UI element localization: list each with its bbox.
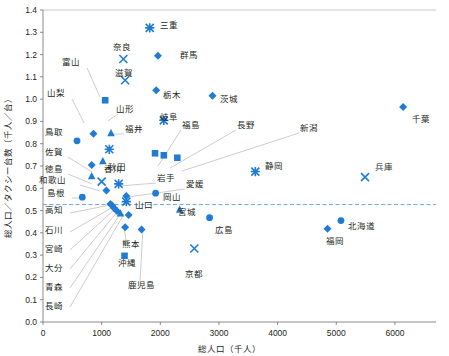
point-label-沖縄: 沖縄	[118, 258, 136, 268]
data-point-北海道[interactable]	[338, 217, 345, 224]
point-label-福岡: 福岡	[326, 236, 344, 246]
data-point-広島[interactable]	[206, 214, 213, 221]
x-axis-title: 総人口（千人）	[198, 344, 261, 354]
data-point-茨城[interactable]	[209, 92, 217, 100]
y-tick-label: 1.4	[25, 5, 37, 15]
data-point-新潟[interactable]	[174, 154, 181, 161]
data-point-熊本[interactable]	[121, 223, 129, 231]
leader-line-富山	[87, 68, 100, 97]
data-point-鹿児島[interactable]	[138, 226, 146, 234]
scatter-chart: 0.00.10.20.30.40.50.60.70.80.91.01.11.21…	[0, 0, 449, 356]
point-label-鳥取: 鳥取	[45, 127, 63, 137]
leader-line-長崎	[70, 214, 124, 307]
y-tick-label: 1.1	[25, 72, 37, 82]
point-label-群馬: 群馬	[180, 50, 198, 60]
point-label-徳島: 徳島	[45, 164, 63, 174]
point-label-岡山: 岡山	[163, 192, 181, 202]
y-tick-label: 0.3	[25, 250, 37, 260]
chart-canvas: 0.00.10.20.30.40.50.60.70.80.91.01.11.21…	[0, 0, 449, 356]
data-point-栃木[interactable]	[152, 86, 160, 94]
data-point-奈良[interactable]	[119, 55, 127, 63]
data-point-山形[interactable]	[107, 129, 115, 136]
point-label-香川: 香川	[104, 164, 122, 174]
point-label-京都: 京都	[185, 269, 203, 279]
point-label-広島: 広島	[215, 225, 233, 235]
point-label-岩手: 岩手	[157, 173, 175, 183]
x-tick-label: 0	[41, 328, 46, 338]
point-label-福島: 福島	[182, 120, 200, 130]
data-point-福井[interactable]	[105, 145, 114, 154]
leader-line-高知	[70, 205, 110, 213]
point-label-奈良: 奈良	[113, 42, 131, 52]
data-point-福島[interactable]	[152, 150, 159, 157]
y-tick-label: 0.7	[25, 161, 37, 171]
data-point-鳥取[interactable]	[74, 137, 81, 144]
x-tick-label: 5000	[327, 328, 346, 338]
data-point-三重[interactable]	[145, 23, 154, 32]
point-label-和歌山: 和歌山	[39, 175, 66, 185]
x-tick-label: 1000	[92, 328, 111, 338]
data-point-佐賀[interactable]	[88, 161, 96, 169]
data-point-徳島[interactable]	[88, 172, 96, 179]
data-point-島根[interactable]	[79, 194, 86, 201]
data-point-長崎[interactable]	[125, 211, 133, 219]
point-label-長野: 長野	[237, 120, 255, 130]
y-tick-label: 0.8	[25, 139, 37, 149]
data-point-兵庫[interactable]	[361, 173, 369, 181]
y-tick-label: 0.5	[25, 206, 37, 216]
x-tick-label: 4000	[268, 328, 287, 338]
y-tick-label: 1.2	[25, 50, 37, 60]
leader-line-山形	[108, 114, 118, 121]
point-label-島根: 島根	[47, 188, 65, 198]
leader-line-山梨	[72, 99, 84, 123]
y-axis-title: 総人口／タクシー台数（千人／台）	[3, 94, 13, 238]
data-point-香川[interactable]	[98, 178, 106, 186]
leader-line-石川	[70, 207, 113, 232]
leader-line-和歌山	[80, 185, 100, 191]
y-tick-label: 0.1	[25, 295, 37, 305]
point-label-北海道: 北海道	[348, 221, 375, 231]
leader-line-青森	[70, 213, 121, 288]
data-point-千葉[interactable]	[399, 103, 407, 111]
point-label-兵庫: 兵庫	[375, 162, 393, 172]
point-label-愛媛: 愛媛	[186, 179, 204, 189]
data-point-福岡[interactable]	[323, 225, 331, 233]
y-tick-label: 0.4	[25, 228, 37, 238]
point-label-佐賀: 佐賀	[45, 147, 63, 157]
point-label-福井: 福井	[125, 124, 143, 134]
x-tick-label: 3000	[210, 328, 229, 338]
data-point-山口[interactable]	[122, 197, 131, 206]
data-point-群馬[interactable]	[154, 52, 162, 60]
leader-line-鹿児島	[140, 228, 143, 281]
data-point-長野[interactable]	[161, 152, 168, 159]
data-point-岩手[interactable]	[114, 179, 123, 188]
y-tick-label: 0.0	[25, 317, 37, 327]
point-label-富山: 富山	[62, 57, 80, 67]
data-point-京都[interactable]	[190, 244, 198, 252]
point-label-熊本: 熊本	[122, 239, 140, 249]
point-label-岐阜: 岐阜	[160, 112, 178, 122]
point-label-山梨: 山梨	[47, 88, 65, 98]
point-label-鹿児島: 鹿児島	[128, 280, 155, 290]
x-tick-label: 6000	[385, 328, 404, 338]
y-tick-label: 1.0	[25, 94, 37, 104]
leader-line-岩手	[120, 183, 156, 186]
point-label-新潟: 新潟	[300, 123, 318, 133]
y-tick-label: 0.2	[25, 272, 37, 282]
point-label-山形: 山形	[116, 104, 134, 114]
point-label-千葉: 千葉	[412, 114, 430, 124]
data-point-富山[interactable]	[102, 97, 109, 104]
y-tick-label: 0.6	[25, 183, 37, 193]
data-point-和歌山[interactable]	[102, 187, 110, 195]
point-label-三重: 三重	[160, 20, 178, 30]
data-point-静岡[interactable]	[251, 167, 260, 176]
data-point-岡山[interactable]	[152, 190, 159, 197]
point-label-栃木: 栃木	[163, 90, 181, 100]
data-point-山梨[interactable]	[89, 130, 97, 138]
point-label-長崎: 長崎	[45, 301, 63, 311]
point-label-茨城: 茨城	[220, 94, 238, 104]
point-label-山口: 山口	[135, 200, 153, 210]
point-label-静岡: 静岡	[265, 161, 283, 171]
point-label-石川: 石川	[45, 225, 63, 235]
point-label-宮城: 宮城	[178, 207, 196, 217]
